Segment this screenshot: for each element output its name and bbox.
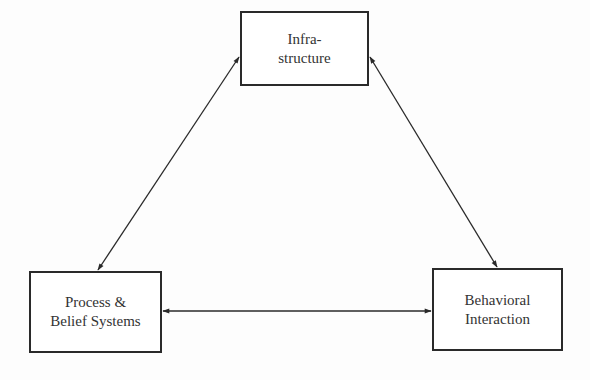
arrow-infrastructure-process [98,57,239,270]
diagram-canvas: Infra- structure Process & Belief System… [0,0,590,380]
arrow-infrastructure-behavioral [370,57,497,267]
node-behavioral-line-1: Behavioral [465,291,531,310]
node-behavioral-line-2: Interaction [465,310,530,329]
node-infrastructure-line-2: structure [278,49,330,68]
node-behavioral-interaction: Behavioral Interaction [432,268,563,351]
node-process-line-1: Process & [65,293,126,312]
node-process-belief-systems: Process & Belief Systems [29,271,162,353]
node-process-line-2: Belief Systems [50,312,140,331]
node-infrastructure: Infra- structure [240,11,369,86]
node-infrastructure-line-1: Infra- [287,30,321,49]
